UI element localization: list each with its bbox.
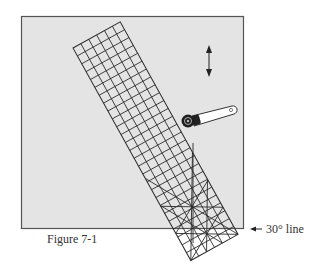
callout-arrow-icon	[250, 227, 262, 232]
figure-caption: Figure 7-1	[47, 232, 97, 247]
callout-label: 30° line	[266, 222, 304, 237]
